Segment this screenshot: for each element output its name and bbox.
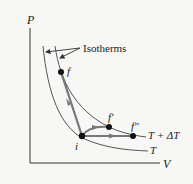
isotherms-label: Isotherms [83, 43, 126, 54]
pv-diagram: P V Isotherms f i f′ f″ T + ΔT T [0, 0, 193, 184]
point-f-double-prime-label: f″ [131, 121, 139, 132]
point-f-label: f [67, 66, 70, 77]
arrow-i-to-f-double-prime [109, 134, 116, 139]
point-f [58, 69, 64, 75]
point-i-label: i [75, 141, 78, 152]
point-f-prime [106, 124, 112, 130]
y-axis-label: P [27, 14, 34, 26]
point-i [79, 133, 85, 139]
x-axis-label: V [163, 158, 170, 170]
point-f-prime-label: f′ [108, 112, 113, 123]
isotherms-arrow-left [46, 48, 80, 52]
point-f-double-prime [130, 133, 136, 139]
isotherm-t-label: T [150, 145, 156, 156]
isotherm-t-plus-dt-label: T + ΔT [148, 130, 179, 141]
